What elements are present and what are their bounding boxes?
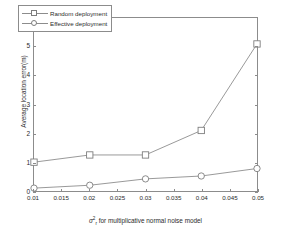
x-tick-label: 0.04 bbox=[196, 194, 208, 202]
data-point bbox=[142, 152, 148, 158]
data-point bbox=[87, 182, 93, 188]
x-tick-mark bbox=[89, 189, 90, 192]
y-tick-mark-right bbox=[255, 75, 258, 76]
data-point bbox=[142, 176, 148, 182]
data-point bbox=[31, 185, 37, 191]
legend-marker-square-icon bbox=[22, 8, 48, 18]
series-layer bbox=[31, 41, 260, 191]
legend-label-random: Random deployment bbox=[48, 10, 107, 17]
y-tick-mark bbox=[33, 134, 36, 135]
x-tick-label: 0.03 bbox=[139, 194, 151, 202]
y-tick-mark bbox=[33, 192, 36, 193]
x-tick-label: 0.015 bbox=[53, 194, 68, 202]
legend-marker-circle-icon bbox=[22, 18, 48, 28]
x-tick-mark bbox=[117, 189, 118, 192]
x-tick-mark bbox=[202, 189, 203, 192]
y-tick-mark bbox=[33, 46, 36, 47]
x-axis-label-rest: for multiplicative normal noise model bbox=[97, 217, 202, 224]
series-line-random bbox=[34, 44, 257, 162]
legend-item-effective: Effective deployment bbox=[22, 18, 107, 28]
chart-figure: 0.010.0150.020.0250.030.0350.040.0450.05… bbox=[0, 0, 291, 237]
y-tick-mark-right bbox=[255, 163, 258, 164]
x-tick-mark bbox=[174, 189, 175, 192]
x-tick-mark bbox=[230, 189, 231, 192]
legend-label-effective: Effective deployment bbox=[48, 20, 107, 27]
x-tick-label: 0.035 bbox=[166, 194, 181, 202]
x-tick-mark bbox=[61, 189, 62, 192]
y-tick-mark bbox=[33, 163, 36, 164]
y-tick-mark-right bbox=[255, 134, 258, 135]
legend-item-random: Random deployment bbox=[22, 8, 107, 18]
data-point bbox=[198, 173, 204, 179]
y-tick-mark bbox=[33, 105, 36, 106]
y-tick-mark-right bbox=[255, 46, 258, 47]
chart-svg bbox=[34, 18, 257, 191]
data-point bbox=[198, 127, 204, 133]
x-tick-label: 0.045 bbox=[222, 194, 237, 202]
y-tick-mark-right bbox=[255, 105, 258, 106]
x-tick-mark bbox=[146, 189, 147, 192]
x-tick-label: 0.025 bbox=[110, 194, 125, 202]
x-axis-label: σ2r for multiplicative normal noise mode… bbox=[33, 216, 258, 226]
y-tick-mark-right bbox=[255, 192, 258, 193]
y-axis-label: Average location error(m) bbox=[20, 22, 27, 162]
y-tick-label: 0 bbox=[18, 188, 30, 196]
chart-legend: Random deployment Effective deployment bbox=[18, 5, 112, 32]
data-point bbox=[254, 165, 260, 171]
y-tick-mark bbox=[33, 75, 36, 76]
x-tick-label: 0.05 bbox=[252, 194, 264, 202]
x-tick-mark bbox=[258, 189, 259, 192]
y-tick-mark-right bbox=[255, 17, 258, 18]
plot-area bbox=[33, 17, 258, 192]
data-point bbox=[87, 152, 93, 158]
x-tick-label: 0.02 bbox=[83, 194, 95, 202]
